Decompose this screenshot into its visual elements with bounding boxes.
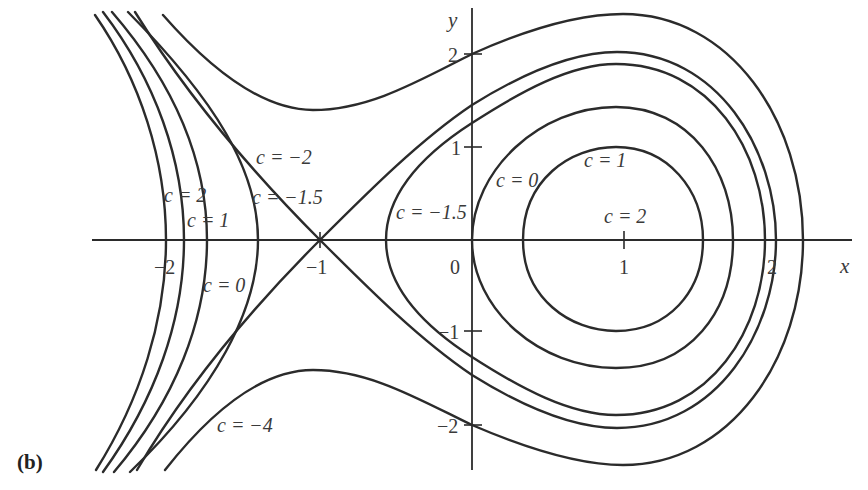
y-tick-label-2: 2 [448, 45, 458, 65]
y-tick-label-minus-2: −2 [437, 416, 458, 436]
label-c-minus-4: c = −4 [217, 415, 273, 435]
y-tick-label-minus-1: −1 [438, 322, 459, 342]
x-tick-label-0: 0 [450, 257, 460, 277]
label-c-minus-1.5-left: c = −1.5 [252, 187, 323, 207]
x-tick-label-1: 1 [619, 257, 629, 277]
level-curve-c1-loop [523, 147, 703, 331]
label-c-0-right: c = 0 [496, 170, 538, 190]
label-c-minus-2: c = −2 [256, 147, 312, 167]
x-tick-label-minus-1: −1 [306, 257, 327, 277]
label-c-minus-1.5-right: c = −1.5 [396, 202, 467, 222]
label-c-0-left: c = 0 [203, 275, 245, 295]
y-tick-label-1: 1 [451, 138, 461, 158]
label-c-2-center: c = 2 [604, 206, 646, 226]
level-curve-c-minus-1.5-left-branch [128, 12, 258, 472]
x-tick-label-2: 2 [767, 257, 777, 277]
level-curve-c0-loop [472, 107, 733, 368]
x-axis-label: x [840, 256, 849, 277]
level-curve-c1-left-branch [103, 12, 184, 472]
y-axis-label: y [448, 10, 457, 31]
phase-plane-diagram [0, 0, 868, 490]
level-curve-c2-left-branch [95, 15, 166, 470]
label-c-1-right: c = 1 [584, 150, 626, 170]
label-c-2-left: c = 2 [164, 185, 206, 205]
label-c-1-left: c = 1 [187, 210, 229, 230]
panel-label: (b) [17, 452, 43, 473]
x-tick-label-minus-2: −2 [154, 257, 175, 277]
